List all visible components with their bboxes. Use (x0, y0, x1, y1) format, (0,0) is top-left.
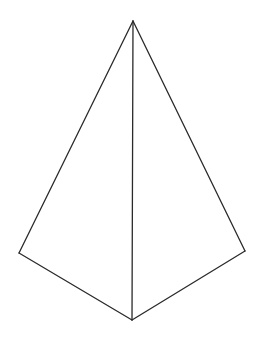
pyramid-diagram (0, 0, 278, 340)
edge-apex-left (19, 21, 133, 253)
edge-apex-right (133, 21, 245, 251)
edge-right-bottom (132, 251, 245, 320)
edge-apex-bottom (132, 21, 133, 320)
edge-left-bottom (19, 253, 132, 320)
